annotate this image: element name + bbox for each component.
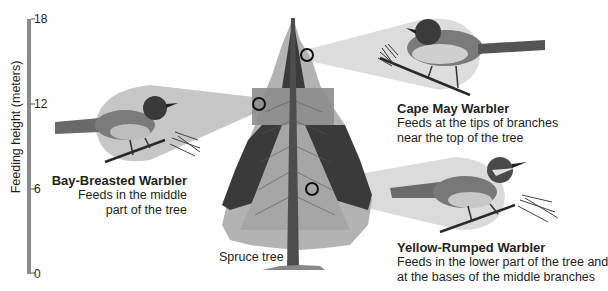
tick-label-0: 0 [34, 268, 41, 280]
bay-breasted-title: Bay-Breasted Warbler [40, 173, 187, 188]
height-axis [27, 19, 35, 274]
spruce-tree-label: Spruce tree [219, 250, 284, 264]
cape-may-desc-line-2: near the top of the tree [397, 131, 558, 146]
tick-label-18: 18 [34, 13, 47, 25]
yellow-rumped-desc-line-2: at the bases of the middle branches [397, 270, 608, 285]
tick-label-12: 12 [34, 98, 47, 110]
cape-may-desc-line-1: Feeds at the tips of branches [397, 116, 558, 131]
y-axis-title: Feeding height (meters) [9, 57, 23, 197]
yellow-rumped-caption: Yellow-Rumped Warbler Feeds in the lower… [397, 240, 608, 285]
yellow-rumped-desc-line-1: Feeds in the lower part of the tree and [397, 255, 608, 270]
bay-breasted-desc-line-2: part of the tree [40, 203, 187, 218]
bay-breasted-desc-line-1: Feeds in the middle [40, 188, 187, 203]
bay-breasted-caption: Bay-Breasted Warbler Feeds in the middle… [40, 173, 187, 218]
cape-may-title: Cape May Warbler [397, 101, 558, 116]
cape-may-caption: Cape May Warbler Feeds at the tips of br… [397, 101, 558, 146]
yellow-rumped-title: Yellow-Rumped Warbler [397, 240, 608, 255]
